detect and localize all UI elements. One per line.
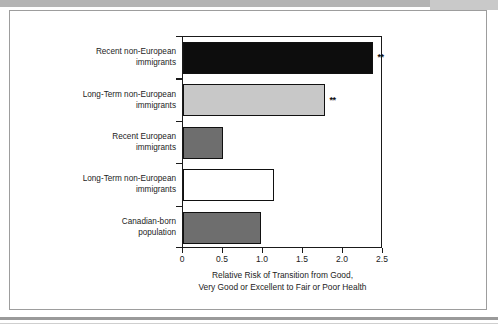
scan-artifact-bottom-rule-thin	[0, 323, 498, 324]
category-label-line1: Long-Term non-European	[83, 89, 176, 100]
category-label-recent-non-european: Recent non-European immigrants	[48, 36, 176, 78]
category-axis-labels: Recent non-European immigrants Long-Term…	[48, 36, 176, 248]
bar-row	[183, 207, 381, 249]
category-label-canadian-born: Canadian-born population	[48, 206, 176, 248]
bar-chart: Recent non-European immigrants Long-Term…	[0, 0, 498, 326]
x-axis-tick-label: 1.5	[296, 254, 308, 264]
x-axis-tick	[382, 248, 383, 253]
x-axis-tick-label: 2.5	[376, 254, 388, 264]
bar-row	[183, 164, 381, 206]
x-axis-tick	[262, 248, 263, 253]
category-label-line1: Canadian-born	[122, 216, 176, 227]
significance-marker-longterm-non-european-upper: **	[329, 96, 335, 105]
category-label-longterm-non-european-lower: Long-Term non-European immigrants	[48, 163, 176, 205]
x-axis-tick	[302, 248, 303, 253]
bar-row: **	[183, 37, 381, 79]
x-axis-tick-label: 0	[180, 254, 185, 264]
bar-recent-non-european	[183, 42, 373, 74]
bar-longterm-non-european-lower	[183, 169, 274, 201]
x-axis-tick-label: 2.0	[336, 254, 348, 264]
category-label-recent-european: Recent European immigrants	[48, 121, 176, 163]
x-axis-title-line2: Very Good or Excellent to Fair or Poor H…	[150, 282, 415, 294]
bar-row: **	[183, 79, 381, 121]
category-label-line1: Long-Term non-European	[83, 173, 176, 184]
scan-artifact-bottom-rule	[0, 317, 498, 320]
x-axis-tick	[182, 248, 183, 253]
x-axis-title: Relative Risk of Transition from Good, V…	[150, 270, 415, 293]
x-axis-tick	[222, 248, 223, 253]
category-label-line1: Recent European	[112, 131, 176, 142]
plot-area: ** **	[182, 36, 382, 248]
x-axis-title-line1: Relative Risk of Transition from Good,	[150, 270, 415, 282]
bar-recent-european	[183, 127, 223, 159]
category-label-line2: population	[138, 227, 176, 238]
category-label-longterm-non-european-upper: Long-Term non-European immigrants	[48, 78, 176, 120]
x-axis-tick	[342, 248, 343, 253]
category-label-line2: immigrants	[136, 100, 176, 111]
bar-row	[183, 122, 381, 164]
x-axis-tick-label: 1.0	[256, 254, 268, 264]
x-axis-tick-labels: 00.51.01.52.02.5	[182, 254, 382, 268]
x-axis-tick-label: 0.5	[216, 254, 228, 264]
category-label-line2: immigrants	[136, 184, 176, 195]
significance-marker-recent-non-european: **	[377, 53, 383, 62]
category-label-line1: Recent non-European	[96, 46, 176, 57]
category-label-line2: immigrants	[136, 57, 176, 68]
bar-longterm-non-european-upper	[183, 84, 325, 116]
category-label-line2: immigrants	[136, 142, 176, 153]
bar-canadian-born	[183, 212, 261, 244]
